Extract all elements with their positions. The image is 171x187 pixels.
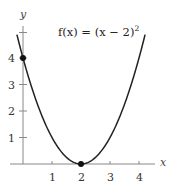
x-axis-label: x [160, 156, 167, 169]
chart: 1234 1234 y x f(x) = (x − 2)2 [0, 0, 171, 187]
y-tick-label: 4 [8, 52, 15, 65]
function-title: f(x) = (x − 2)2 [58, 24, 139, 39]
y-tick-label: 3 [8, 79, 15, 92]
y-tick-label: 2 [8, 105, 15, 118]
x-tick-label: 4 [136, 171, 143, 184]
function-title-exponent: 2 [134, 24, 139, 33]
function-title-main: f(x) = (x − 2) [58, 25, 134, 39]
x-tick-label: 3 [107, 171, 114, 184]
x-tick-label: 1 [49, 171, 56, 184]
key-points [20, 55, 84, 167]
y-ticks: 1234 [8, 33, 27, 145]
y-tick-label: 1 [8, 132, 15, 145]
parabola-curve [17, 35, 145, 164]
y-axis-label: y [19, 8, 27, 21]
x-tick-label: 2 [78, 171, 85, 184]
y-intercept-point [20, 55, 26, 61]
vertex-point [78, 161, 84, 167]
